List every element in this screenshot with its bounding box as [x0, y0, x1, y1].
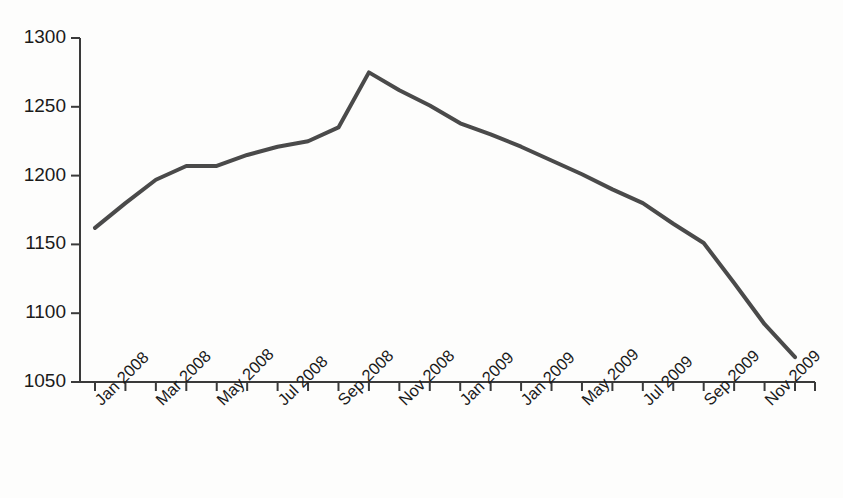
y-tick-label: 1250	[4, 95, 66, 117]
chart-plot-area	[0, 0, 843, 498]
y-tick-label: 1200	[4, 164, 66, 186]
axis-group	[80, 38, 815, 382]
line-chart: 105011001150120012501300 Jan 2008Mar 200…	[0, 0, 843, 498]
y-tick-label: 1150	[4, 232, 66, 254]
y-tick-label: 1300	[4, 26, 66, 48]
y-tick-label: 1050	[4, 370, 66, 392]
y-tick-label: 1100	[4, 301, 66, 323]
y-tick-marks	[71, 38, 80, 382]
data-series-line	[95, 72, 795, 357]
